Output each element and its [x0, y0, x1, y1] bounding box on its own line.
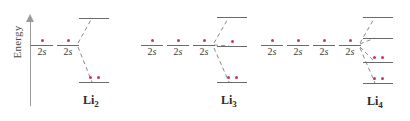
electrons-mo-li4-2 [363, 53, 393, 61]
electron-dot [151, 39, 154, 42]
electrons-mo-li3-1 [217, 37, 247, 45]
electrons-mo-li2-1 [79, 73, 109, 81]
molecule-label-text: Li [83, 93, 94, 107]
electron-dot [373, 77, 376, 80]
electron-dot [297, 39, 300, 42]
electron-dot [89, 76, 92, 79]
electrons-ao-li2-1 [57, 36, 79, 44]
molecule-label-subscript: 4 [378, 100, 383, 110]
electron-dot [381, 77, 384, 80]
molecular-orbital-level-li4-2 [363, 62, 393, 63]
molecule-label-li2: Li2 [83, 93, 99, 109]
electrons-ao-li4-3 [339, 36, 361, 44]
electron-dot [373, 56, 376, 59]
molecular-orbital-level-li3-0 [217, 17, 247, 18]
molecule-label-text: Li [221, 93, 232, 107]
electron-dot [323, 39, 326, 42]
electron-dot [349, 39, 352, 42]
energy-axis [24, 14, 38, 106]
electrons-ao-li4-1 [287, 36, 309, 44]
molecular-orbital-level-li2-0 [79, 18, 109, 19]
atomic-orbital-label-li2-1: 2s [53, 46, 83, 57]
axis-line [30, 20, 31, 106]
electron-dot [381, 56, 384, 59]
molecular-orbital-level-li4-3 [363, 83, 393, 84]
electron-dot [67, 39, 70, 42]
mo-energy-diagram: Energy 2s2sLi22s2s2sLi32s2s2s2sLi4 [0, 0, 410, 121]
molecular-orbital-level-li4-0 [363, 17, 393, 18]
electron-dot [177, 39, 180, 42]
electron-dot [227, 76, 230, 79]
electrons-ao-li2-0 [31, 36, 53, 44]
electron-dot [235, 76, 238, 79]
electrons-ao-li4-0 [261, 36, 283, 44]
electrons-mo-li4-3 [363, 74, 393, 82]
electrons-ao-li3-2 [193, 36, 215, 44]
molecule-label-li3: Li3 [221, 93, 237, 109]
electron-dot [203, 39, 206, 42]
molecular-orbital-level-li3-2 [217, 82, 247, 83]
electron-dot [41, 39, 44, 42]
electrons-ao-li3-0 [141, 36, 163, 44]
electrons-ao-li4-2 [313, 36, 335, 44]
molecule-label-li4: Li4 [367, 94, 383, 110]
atomic-orbital-label-li3-2: 2s [189, 46, 219, 57]
molecular-orbital-level-li4-1 [363, 38, 393, 39]
electrons-mo-li3-2 [217, 73, 247, 81]
molecular-orbital-level-li2-1 [79, 82, 109, 83]
molecule-label-subscript: 3 [232, 99, 237, 109]
energy-axis-label: Energy [11, 11, 23, 73]
electron-dot [97, 76, 100, 79]
molecule-label-text: Li [367, 94, 378, 108]
electron-dot [231, 40, 234, 43]
molecular-orbital-level-li3-1 [217, 46, 247, 47]
correlation-lines [0, 0, 410, 121]
electron-dot [271, 39, 274, 42]
atomic-orbital-label-li4-3: 2s [335, 46, 365, 57]
molecule-label-subscript: 2 [94, 99, 99, 109]
electrons-ao-li3-1 [167, 36, 189, 44]
